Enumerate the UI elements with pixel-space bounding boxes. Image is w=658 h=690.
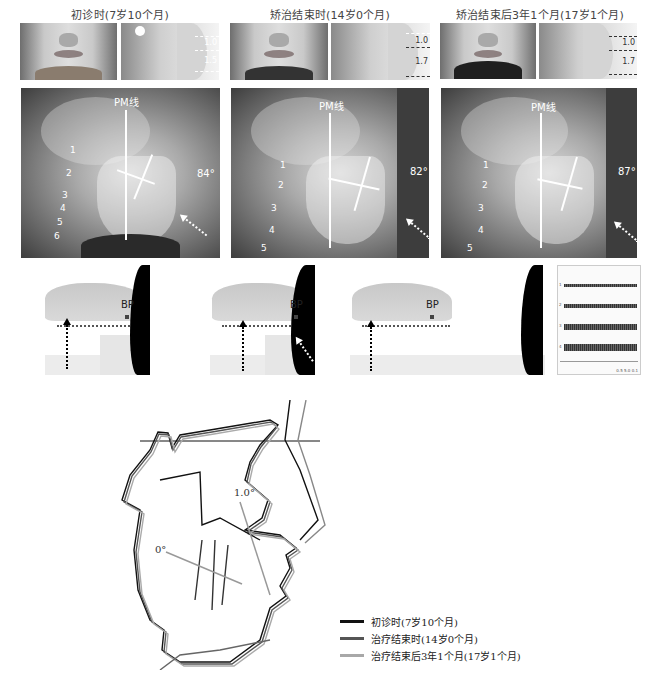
- vertebra-label: 3: [478, 203, 484, 213]
- legend-swatch: [340, 654, 364, 657]
- upward-arrow-icon: [370, 327, 372, 371]
- cephalometric-superimposition: 1.0° 0°: [120, 400, 340, 670]
- facial-angle: 87°: [618, 166, 636, 177]
- occlusion-diagram-initial: BP: [45, 265, 150, 375]
- measurement-upper: 1.0: [415, 36, 428, 45]
- vertebra-label: 5: [261, 243, 267, 253]
- vertebra-label: 1: [483, 160, 489, 170]
- facial-photo-profile-initial: 1.0 1.5: [121, 23, 219, 80]
- pm-line-label: PM线: [114, 94, 139, 109]
- emg-scale-footer: 0.5 5.0 0.1: [616, 368, 638, 373]
- emg-trace: [564, 304, 637, 308]
- measurement-lower: 1.5: [204, 56, 217, 65]
- pm-line: [329, 113, 331, 248]
- vertebra-label: 4: [269, 225, 275, 235]
- occlusion-diagram-followup: BP: [350, 265, 555, 375]
- facial-angle: 84°: [197, 168, 215, 179]
- facial-angle: 82°: [410, 166, 428, 177]
- column-title-end-treatment: 矫治结束时(14岁0个月): [230, 6, 430, 22]
- xray-initial: PM线 84° 1 2 3 4 5 6: [21, 88, 220, 258]
- vertebra-label: 3: [62, 190, 68, 200]
- angle-label-incisor: 1.0°: [234, 487, 255, 498]
- vertebra-label: 3: [271, 203, 277, 213]
- emg-trace: [564, 344, 637, 351]
- bp-point: [294, 315, 298, 319]
- legend-swatch: [340, 637, 364, 640]
- vertebra-label: 5: [57, 217, 63, 227]
- emg-trace: [564, 324, 637, 330]
- measurement-lower: 1.7: [622, 57, 635, 66]
- vertebra-label: 2: [278, 180, 284, 190]
- upward-arrow-icon: [66, 325, 68, 369]
- facial-photo-frontal-end-treatment: [230, 23, 328, 80]
- legend-label: 治疗结束时(14岁0个月): [371, 631, 478, 646]
- emg-channel-label: 1: [559, 282, 562, 287]
- emg-channel-label: 2: [559, 302, 562, 307]
- measurement-lower: 1.7: [415, 57, 428, 66]
- vertebra-label: 4: [478, 225, 484, 235]
- column-title-followup: 矫治结束后3年1个月(17岁1个月): [435, 6, 645, 22]
- vertebra-label: 1: [280, 160, 286, 170]
- column-title-initial: 初诊时(7岁10个月): [20, 6, 220, 22]
- emg-channel-label: 3: [559, 323, 562, 328]
- occlusion-diagram-end-treatment: BP: [210, 265, 315, 375]
- facial-photo-frontal-followup: [440, 23, 536, 79]
- pm-line: [125, 110, 127, 240]
- facial-photo-profile-followup: 1.0 1.7: [539, 23, 637, 79]
- emg-recording-panel: 1 2 3 4 0.5 5.0 0.1: [557, 265, 641, 375]
- legend-item-followup: 治疗结束后3年1个月(17岁1个月): [340, 647, 521, 664]
- legend-swatch: [340, 620, 364, 623]
- vertebra-label: 2: [482, 180, 488, 190]
- facial-photo-profile-end-treatment: 1.0 1.7: [331, 23, 430, 80]
- bp-point: [430, 315, 434, 319]
- vertebra-label: 2: [66, 168, 72, 178]
- facial-photo-frontal-initial: [20, 23, 117, 80]
- angle-label-occlusal: 0°: [155, 544, 166, 555]
- bp-label: BP: [121, 299, 134, 310]
- vertebra-label: 6: [54, 231, 60, 241]
- xray-followup: PM线 87° 1 2 3 4 5: [441, 88, 637, 258]
- pm-line-label: PM线: [319, 98, 344, 113]
- emg-trace: [564, 284, 637, 287]
- emg-channel-label: 4: [559, 344, 562, 349]
- emg-time-axis: [560, 361, 638, 366]
- dotted-arrow-icon: [182, 216, 207, 236]
- legend-label: 初诊时(7岁10个月): [371, 614, 458, 629]
- measurement-upper: 1.0: [204, 38, 217, 47]
- legend-label: 治疗结束后3年1个月(17岁1个月): [371, 648, 521, 663]
- xray-end-treatment: PM线 82° 1 2 3 4 5: [231, 88, 429, 258]
- legend: 初诊时(7岁10个月) 治疗结束时(14岁0个月) 治疗结束后3年1个月(17岁…: [340, 613, 521, 664]
- bp-label: BP: [426, 299, 439, 310]
- vertebra-label: 4: [60, 203, 66, 213]
- vertebra-label: 1: [70, 145, 76, 155]
- bp-label: BP: [290, 299, 303, 310]
- pm-line-label: PM线: [531, 99, 556, 114]
- legend-item-initial: 初诊时(7岁10个月): [340, 613, 521, 630]
- bp-point: [125, 315, 129, 319]
- legend-item-end-treatment: 治疗结束时(14岁0个月): [340, 630, 521, 647]
- measurement-upper: 1.0: [622, 38, 635, 47]
- vertebra-label: 5: [467, 243, 473, 253]
- upward-arrow-icon: [242, 327, 244, 371]
